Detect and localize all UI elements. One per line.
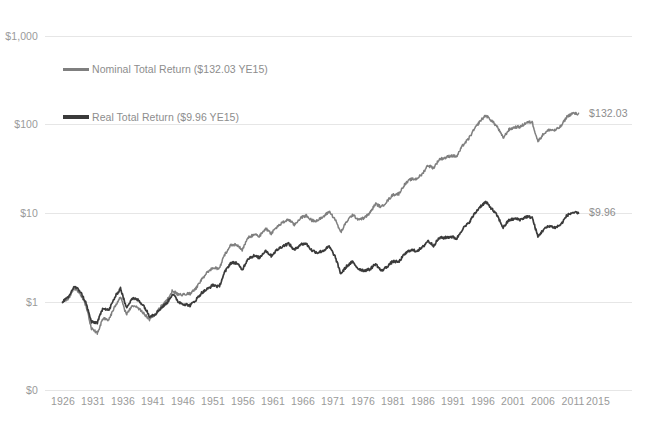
end-label-nominal: $132.03 — [589, 107, 628, 119]
chart-container: $1,000 $100 $10 $1 $0 1926 1931 1936 194… — [0, 0, 649, 427]
ytick-label-1: $1 — [0, 296, 38, 308]
series-lines — [63, 112, 579, 334]
legend-item-real[interactable]: Real Total Return ($9.96 YE15) — [63, 111, 239, 123]
gridlines — [45, 36, 632, 391]
legend-label-real: Real Total Return ($9.96 YE15) — [92, 111, 239, 123]
ytick-label-100: $100 — [0, 118, 38, 130]
ytick-label-0: $0 — [0, 384, 38, 396]
ytick-label-10: $10 — [0, 207, 38, 219]
legend-swatch-real — [63, 115, 89, 119]
ytick-label-1000: $1,000 — [0, 30, 38, 42]
end-label-real: $9.96 — [589, 206, 616, 218]
legend-label-nominal: Nominal Total Return ($132.03 YE15) — [92, 63, 268, 75]
xtick-label-2015: 2015 — [578, 395, 618, 407]
legend-swatch-nominal — [63, 68, 89, 71]
legend-item-nominal[interactable]: Nominal Total Return ($132.03 YE15) — [63, 63, 268, 75]
